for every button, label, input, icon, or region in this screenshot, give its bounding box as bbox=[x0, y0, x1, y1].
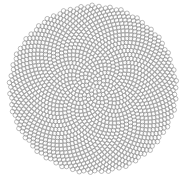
phyllotaxis-diagram bbox=[0, 0, 186, 180]
spiral-dots bbox=[7, 3, 178, 174]
spiral-canvas bbox=[0, 0, 186, 180]
